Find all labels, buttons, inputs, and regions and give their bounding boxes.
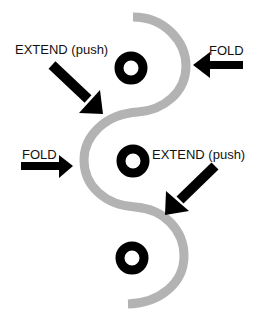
label-extend-top: EXTEND (push) [15, 43, 108, 56]
node-bottom-donut-icon [120, 246, 144, 270]
node-middle-donut-icon [121, 149, 145, 173]
arrow-extend-middle-icon [165, 166, 215, 215]
node-top-donut-icon [119, 56, 143, 80]
label-fold-top: FOLD [209, 44, 244, 57]
label-extend-middle: EXTEND (push) [152, 148, 245, 161]
arrow-extend-top-icon [52, 65, 103, 114]
label-fold-middle: FOLD [22, 148, 57, 161]
